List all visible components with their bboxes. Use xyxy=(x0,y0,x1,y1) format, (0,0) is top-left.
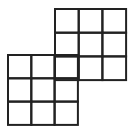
grid-cell xyxy=(55,56,79,80)
grid-cell xyxy=(31,78,54,101)
grid-cell xyxy=(8,102,31,125)
top-right-grid xyxy=(55,9,126,80)
grid-diagram xyxy=(0,0,135,129)
grid-cell xyxy=(55,33,79,57)
grid-cell xyxy=(55,9,79,33)
grid-cell xyxy=(55,55,78,78)
grid-cell xyxy=(79,9,103,33)
grid-cell xyxy=(31,102,54,125)
bottom-left-grid xyxy=(8,55,78,125)
grid-cell xyxy=(8,78,31,101)
grid-cell xyxy=(102,56,126,80)
grid-cell xyxy=(8,55,31,78)
grid-cell xyxy=(31,55,54,78)
grid-cell xyxy=(102,33,126,57)
grid-cell xyxy=(55,102,78,125)
grid-cell xyxy=(79,56,103,80)
grid-cell xyxy=(55,78,78,101)
grid-cell xyxy=(79,33,103,57)
grid-cell xyxy=(102,9,126,33)
